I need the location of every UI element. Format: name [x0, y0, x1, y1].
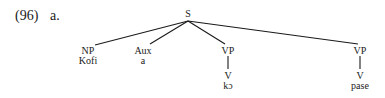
word-pase: pase: [351, 81, 369, 91]
branch-s-np: [95, 21, 188, 45]
word-kofi: Kofi: [79, 56, 97, 66]
branch-s-vp2: [188, 21, 358, 44]
node-vp-2: VP: [354, 46, 367, 56]
branch-s-aux: [150, 21, 188, 44]
node-s: S: [185, 9, 191, 19]
word-a: a: [141, 56, 145, 66]
word-ko: kɔ: [223, 81, 232, 91]
branch-s-vp1: [188, 21, 225, 44]
node-vp-1: VP: [222, 46, 235, 56]
tree-branches: [0, 0, 385, 98]
